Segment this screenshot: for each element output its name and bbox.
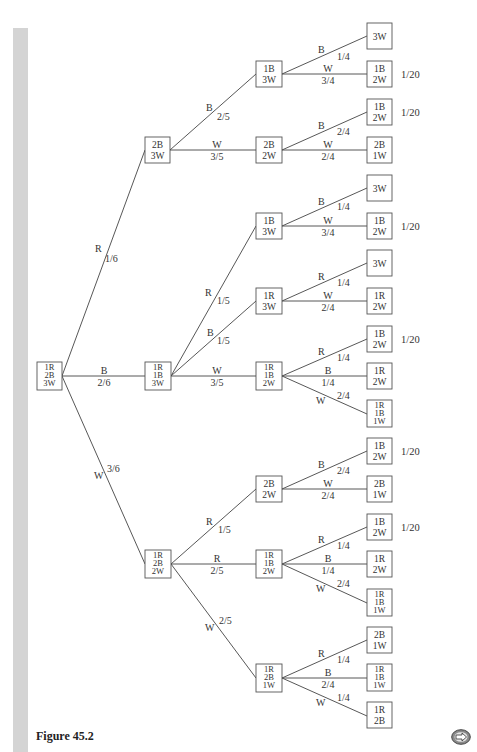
outcome-prob: 1/20 bbox=[401, 221, 420, 232]
node-l2-1-line1: 1B bbox=[263, 64, 274, 74]
node-leaf-12-line1: 1B bbox=[374, 441, 385, 451]
edge-label-prob: 1/4 bbox=[337, 51, 350, 62]
edge-label-prob: 1/4 bbox=[337, 692, 350, 703]
node-l2-8-line3: 1W bbox=[263, 680, 275, 690]
node-leaf-14-line2: 2W bbox=[373, 528, 387, 538]
edge-label-color: B bbox=[318, 44, 325, 55]
edge-label-prob: 1/4 bbox=[337, 277, 350, 288]
edge-label-prob: 1/6 bbox=[105, 253, 118, 264]
node-l2-6-line2: 2W bbox=[262, 490, 276, 500]
node-root-line3: 3W bbox=[43, 378, 55, 388]
edge-label-color: R bbox=[318, 271, 325, 282]
node-leaf-7-line1: 3W bbox=[373, 259, 387, 269]
node-leaf-9-line1: 1B bbox=[374, 329, 385, 339]
edge-label-color: R bbox=[214, 553, 221, 564]
edge-label-color: B bbox=[206, 102, 213, 113]
edge-label-prob: 3/5 bbox=[211, 377, 224, 388]
outcome-probabilities: 1/20 1/20 1/20 1/20 1/20 1/20 bbox=[401, 69, 420, 533]
edge-label-color: R bbox=[318, 534, 325, 545]
edge-label-prob: 1/5 bbox=[218, 524, 231, 535]
node-l2-4-line2: 3W bbox=[262, 302, 276, 312]
edge-label-color: W bbox=[323, 63, 333, 74]
edge-label-color: W bbox=[316, 697, 326, 708]
node-leaf-17-line2: 1W bbox=[373, 641, 387, 651]
edge-label-color: W bbox=[316, 395, 326, 406]
edge-label-color: W bbox=[323, 478, 333, 489]
edge-label-prob: 2/4 bbox=[322, 302, 335, 313]
node-l2-6-line1: 2B bbox=[263, 479, 274, 489]
node-l2-2-line2: 2W bbox=[262, 151, 276, 161]
node-leaf-1-line1: 3W bbox=[373, 32, 387, 42]
edge-label-color: R bbox=[205, 287, 212, 298]
node-l2-1-line2: 3W bbox=[262, 75, 276, 85]
next-arrow-icon bbox=[451, 729, 471, 745]
edge-label-prob: 2/4 bbox=[322, 490, 335, 501]
edge-label-color: W bbox=[323, 290, 333, 301]
node-l2-5-line3: 2W bbox=[263, 378, 275, 388]
node-l2-4-line1: 1R bbox=[263, 291, 275, 301]
edge-label-color: R bbox=[318, 346, 325, 357]
node-leaf-15-line2: 2W bbox=[373, 565, 387, 575]
node-leaf-10-line2: 2W bbox=[373, 377, 387, 387]
edge-label-color: W bbox=[316, 583, 326, 594]
outcome-prob: 1/20 bbox=[401, 334, 420, 345]
next-page-button[interactable] bbox=[451, 729, 471, 745]
edge-label-prob: 2/5 bbox=[219, 615, 232, 626]
edge-label-color: W bbox=[205, 622, 215, 633]
node-leaf-17-line1: 2B bbox=[374, 630, 385, 640]
node-leaf-13-line1: 2B bbox=[374, 479, 385, 489]
edge-label-color: W bbox=[94, 470, 104, 481]
node-leaf-13-line2: 1W bbox=[373, 490, 387, 500]
node-leaf-16-line3: 1W bbox=[373, 605, 385, 615]
edge-label-color: B bbox=[318, 120, 325, 131]
node-leaf-8-line2: 2W bbox=[373, 302, 387, 312]
probability-tree-diagram: 1R 2B 3W 2B 3W 1R 1B 3W 1R 2B 2W 1B 3W 2… bbox=[0, 0, 477, 752]
edge-label-color: B bbox=[318, 196, 325, 207]
edge-label-prob: 2/4 bbox=[337, 390, 350, 401]
edge-label-prob: 3/4 bbox=[322, 227, 335, 238]
edge-label-color: B bbox=[318, 459, 325, 470]
node-leaf-15-line1: 1R bbox=[374, 554, 386, 564]
edge-label-color: B bbox=[325, 365, 332, 376]
node-leaf-19-line1: 1R bbox=[374, 705, 386, 715]
edge-label-color: R bbox=[95, 243, 102, 254]
edge-label-prob: 1/4 bbox=[337, 540, 350, 551]
edge-label-color: B bbox=[325, 553, 332, 564]
edge-label-color: R bbox=[318, 648, 325, 659]
node-leaf-6-line2: 2W bbox=[373, 227, 387, 237]
edge-label-prob: 2/4 bbox=[337, 578, 350, 589]
node-leaf-19-line2: 2B bbox=[374, 716, 385, 726]
node-leaf-5-line1: 3W bbox=[373, 184, 387, 194]
node-l2-7-line3: 2W bbox=[263, 566, 275, 576]
outcome-prob: 1/20 bbox=[401, 107, 420, 118]
node-l2-3-line2: 3W bbox=[262, 227, 276, 237]
edge-label-color: W bbox=[323, 215, 333, 226]
node-leaf-11-line3: 1W bbox=[373, 416, 385, 426]
edge-label-prob: 1/4 bbox=[337, 201, 350, 212]
edge-label-color: W bbox=[212, 365, 222, 376]
node-l1-b-line3: 3W bbox=[152, 378, 164, 388]
node-leaf-4-line2: 1W bbox=[373, 151, 387, 161]
outcome-prob: 1/20 bbox=[401, 446, 420, 457]
node-leaf-6-line1: 1B bbox=[374, 216, 385, 226]
node-l1-c-line3: 2W bbox=[152, 566, 164, 576]
edge-label-color: W bbox=[323, 139, 333, 150]
node-leaf-3-line2: 2W bbox=[373, 113, 387, 123]
node-leaf-8-line1: 1R bbox=[374, 291, 386, 301]
node-leaf-2-line1: 1B bbox=[374, 64, 385, 74]
edge-label-prob: 1/4 bbox=[337, 654, 350, 665]
edge-label-prob: 1/4 bbox=[322, 565, 335, 576]
edge-label-color: R bbox=[206, 516, 213, 527]
edge-label-prob: 2/4 bbox=[322, 679, 335, 690]
edge-label-prob: 1/5 bbox=[217, 295, 230, 306]
edge-label-prob: 3/5 bbox=[211, 151, 224, 162]
node-l1-a-line1: 2B bbox=[152, 140, 163, 150]
edge-label-prob: 2/5 bbox=[211, 565, 224, 576]
edge-label-prob: 3/6 bbox=[107, 463, 120, 474]
edge-label-prob: 3/4 bbox=[322, 75, 335, 86]
edge-label-prob: 2/5 bbox=[217, 111, 230, 122]
node-leaf-4-line1: 2B bbox=[374, 140, 385, 150]
edge-label-prob: 2/4 bbox=[337, 465, 350, 476]
edge-label-prob: 2/4 bbox=[322, 151, 335, 162]
node-leaf-3-line1: 1B bbox=[374, 102, 385, 112]
